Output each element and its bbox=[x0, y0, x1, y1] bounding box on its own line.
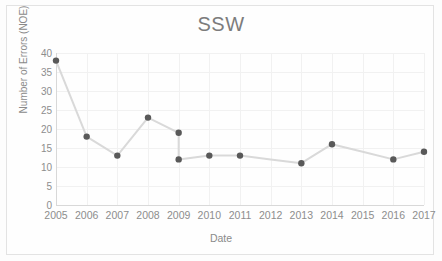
data-point-marker bbox=[175, 156, 181, 162]
y-tick-label: 10 bbox=[41, 162, 52, 173]
y-axis-label: Number of Errors (NOE) bbox=[18, 0, 29, 130]
x-tick-label: 2005 bbox=[44, 209, 67, 221]
x-tick-label: 2011 bbox=[229, 209, 252, 221]
x-tick-label: 2014 bbox=[320, 209, 343, 221]
x-tick-label: 2012 bbox=[259, 209, 282, 221]
x-tick-label: 2017 bbox=[412, 209, 435, 221]
data-point-marker bbox=[421, 149, 427, 155]
data-point-marker bbox=[114, 152, 120, 158]
x-tick-label: 2008 bbox=[136, 209, 159, 221]
y-axis-tick-labels: 4035302520151050 bbox=[30, 46, 52, 212]
series-line bbox=[56, 61, 424, 164]
x-axis-tick-labels: 2005200620072008200920102011201220132014… bbox=[56, 209, 424, 227]
data-point-marker bbox=[175, 130, 181, 136]
data-point-marker bbox=[206, 152, 212, 158]
data-point-marker bbox=[145, 114, 151, 120]
y-tick-label: 40 bbox=[41, 48, 52, 59]
x-tick-label: 2010 bbox=[198, 209, 221, 221]
plot-area bbox=[56, 53, 424, 205]
gridline-vertical bbox=[424, 53, 425, 205]
x-tick-label: 2016 bbox=[382, 209, 405, 221]
gridline-horizontal bbox=[56, 205, 424, 206]
y-tick-label: 30 bbox=[41, 86, 52, 97]
y-tick-label: 20 bbox=[41, 124, 52, 135]
data-point-marker bbox=[83, 133, 89, 139]
x-tick-label: 2015 bbox=[351, 209, 374, 221]
x-tick-label: 2006 bbox=[75, 209, 98, 221]
figure-image: SSW Number of Errors (NOE) 4035302520151… bbox=[0, 0, 442, 261]
data-series-ssw bbox=[56, 53, 424, 205]
y-tick-label: 35 bbox=[41, 67, 52, 78]
y-tick-label: 5 bbox=[46, 181, 52, 192]
chart-title: SSW bbox=[0, 13, 442, 36]
data-point-marker bbox=[390, 156, 396, 162]
y-tick-label: 25 bbox=[41, 105, 52, 116]
x-axis-label: Date bbox=[0, 232, 442, 244]
data-point-marker bbox=[329, 141, 335, 147]
x-tick-label: 2007 bbox=[106, 209, 129, 221]
x-tick-label: 2013 bbox=[290, 209, 313, 221]
data-point-marker bbox=[53, 57, 59, 63]
x-tick-label: 2009 bbox=[167, 209, 190, 221]
data-point-marker bbox=[237, 152, 243, 158]
data-point-marker bbox=[298, 160, 304, 166]
y-tick-label: 15 bbox=[41, 143, 52, 154]
